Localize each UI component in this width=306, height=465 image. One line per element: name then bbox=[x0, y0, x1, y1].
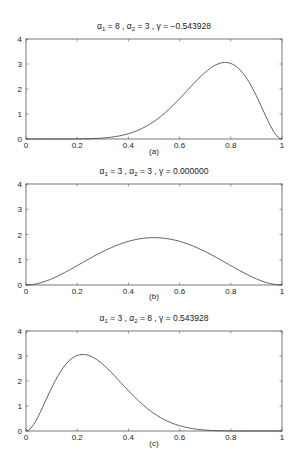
x-tick-label: 0.2 bbox=[72, 433, 84, 442]
x-tick-label: 0.6 bbox=[174, 141, 186, 150]
plot-frame bbox=[26, 184, 282, 285]
pdf-curve bbox=[26, 354, 282, 431]
x-tick-label: 1 bbox=[280, 141, 285, 150]
plot-frame bbox=[26, 331, 282, 431]
x-tick-label: 0.2 bbox=[72, 141, 84, 150]
y-tick-label: 1 bbox=[18, 402, 23, 411]
chart-title: α1 = 3 , α2 = 8 , γ = 0.543928 bbox=[100, 313, 209, 324]
panel-label: (a) bbox=[149, 147, 159, 156]
y-tick-label: 0 bbox=[18, 281, 23, 290]
x-tick-label: 0.8 bbox=[225, 141, 237, 150]
y-tick-label: 0 bbox=[18, 427, 23, 436]
x-tick-label: 0.8 bbox=[225, 433, 237, 442]
y-tick-label: 2 bbox=[18, 377, 23, 386]
chart-title: α1 = 8 , α2 = 3 , γ = −0.543928 bbox=[97, 21, 211, 32]
y-tick-label: 3 bbox=[18, 60, 23, 69]
y-tick-label: 3 bbox=[18, 205, 23, 214]
chart-panel-1: α1 = 8 , α2 = 3 , γ = −0.54392800.20.40.… bbox=[18, 21, 285, 156]
plot-frame bbox=[26, 39, 282, 139]
x-tick-label: 0.4 bbox=[123, 141, 135, 150]
x-tick-label: 0 bbox=[24, 433, 29, 442]
x-tick-label: 0.6 bbox=[174, 287, 186, 296]
x-tick-label: 0.6 bbox=[174, 433, 186, 442]
chart-panel-2: α1 = 3 , α2 = 3 , γ = 0.00000000.20.40.6… bbox=[18, 166, 285, 301]
panel-label: (b) bbox=[149, 292, 159, 301]
chart-title: α1 = 3 , α2 = 3 , γ = 0.000000 bbox=[100, 166, 209, 177]
panel-label: (c) bbox=[149, 439, 159, 448]
y-tick-label: 4 bbox=[18, 327, 23, 336]
y-tick-label: 0 bbox=[18, 135, 23, 144]
pdf-curve bbox=[26, 238, 282, 285]
x-tick-label: 0.8 bbox=[225, 287, 237, 296]
chart-panel-3: α1 = 3 , α2 = 8 , γ = 0.54392800.20.40.6… bbox=[18, 313, 285, 448]
y-tick-label: 3 bbox=[18, 352, 23, 361]
x-tick-label: 0 bbox=[24, 141, 29, 150]
x-tick-label: 1 bbox=[280, 287, 285, 296]
y-tick-label: 1 bbox=[18, 256, 23, 265]
x-tick-label: 0 bbox=[24, 287, 29, 296]
y-tick-label: 2 bbox=[18, 231, 23, 240]
y-tick-label: 4 bbox=[18, 180, 23, 189]
beta-distribution-figure: α1 = 8 , α2 = 3 , γ = −0.54392800.20.40.… bbox=[0, 0, 306, 465]
x-tick-label: 1 bbox=[280, 433, 285, 442]
pdf-curve bbox=[26, 62, 282, 139]
x-tick-label: 0.2 bbox=[72, 287, 84, 296]
x-tick-label: 0.4 bbox=[123, 287, 135, 296]
x-tick-label: 0.4 bbox=[123, 433, 135, 442]
y-tick-label: 2 bbox=[18, 85, 23, 94]
y-tick-label: 4 bbox=[18, 35, 23, 44]
y-tick-label: 1 bbox=[18, 110, 23, 119]
